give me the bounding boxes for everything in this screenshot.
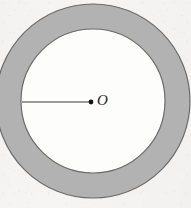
- annulus-diagram: [0, 0, 191, 208]
- center-point-label: O: [97, 93, 108, 108]
- figure-canvas: O: [0, 0, 191, 208]
- center-point-dot: [89, 100, 94, 105]
